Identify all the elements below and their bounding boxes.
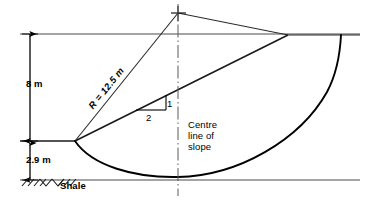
radius-line <box>75 13 178 141</box>
slope-ratio-vertical-label: 1 <box>167 98 172 109</box>
centre-line-annotation-line-1: Centre <box>188 119 217 130</box>
centre-line-annotation-line-2: line of <box>188 130 214 141</box>
slip-circle-arc <box>75 35 341 177</box>
material-label-shale: Shale <box>60 180 86 191</box>
slope-stability-figure: 8 m 2.9 m Shale 1 2 R = 12.5 m Centrelin… <box>0 0 367 207</box>
slope-ratio-horizontal-label: 2 <box>146 112 151 123</box>
dimension-label-slope-height: 8 m <box>26 78 43 89</box>
dimension-label-foundation-depth: 2.9 m <box>26 154 51 165</box>
figure-canvas <box>0 0 367 207</box>
centre-line-annotation-line-3: slope <box>188 141 211 152</box>
centre-line-annotation: Centreline ofslope <box>188 119 217 153</box>
crest-surface-line <box>178 13 360 35</box>
